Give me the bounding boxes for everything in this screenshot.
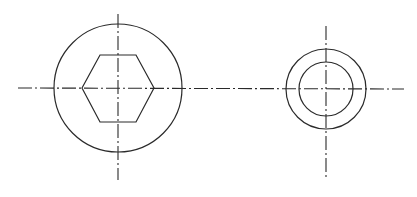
hex-socket-head-view (54, 14, 182, 180)
horizontal-centerline (18, 88, 404, 89)
concentric-circles-view (286, 26, 366, 180)
technical-drawing-canvas (0, 0, 417, 197)
